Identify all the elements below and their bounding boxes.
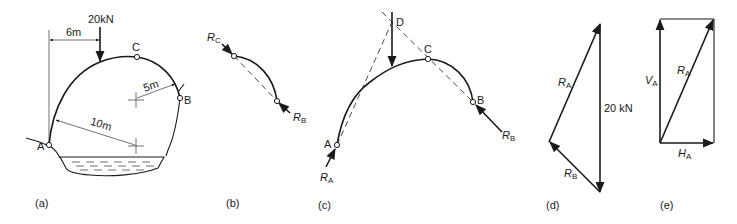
ground-left-bank [51, 147, 60, 158]
caption-b: (b) [226, 197, 239, 209]
radius-10m-label: 10m [89, 115, 113, 133]
hinge-a [46, 142, 51, 147]
label-ra: RA [677, 64, 691, 78]
panel-d-force-triangle: RA RB 20 kN (d) [546, 24, 633, 211]
arch-curve [337, 59, 473, 145]
label-b: B [184, 94, 191, 106]
ra-vector [549, 24, 600, 142]
caption-e: (e) [660, 199, 673, 211]
load-label: 20kN [88, 13, 114, 25]
rock-face-right [166, 98, 180, 156]
panel-b-member-cb: RC RB (b) [207, 31, 306, 209]
label-rb: RB [502, 129, 515, 143]
hinge-b [470, 99, 475, 104]
hinge-b [274, 98, 279, 103]
label-c: C [424, 43, 432, 55]
water-pool [60, 157, 164, 176]
panel-e-reaction-components: VA RA HA (e) [645, 19, 714, 211]
arch-curve [49, 57, 180, 145]
label-a: A [324, 138, 332, 150]
hinge-c [425, 56, 430, 61]
radius-5m-label: 5m [142, 77, 160, 94]
rb-vector [550, 142, 600, 192]
force-rb-arrow [279, 103, 290, 113]
line-of-action-ra [337, 22, 392, 145]
label-d: D [396, 16, 404, 28]
label-ha: HA [678, 147, 692, 161]
label-va: VA [645, 74, 658, 88]
three-hinged-arch-diagram: 6m 20kN 5m 10m [0, 0, 737, 224]
panel-a-arch-geometry: 6m 20kN 5m 10m [26, 13, 191, 209]
label-b: B [477, 94, 484, 106]
hinge-tick [178, 84, 184, 92]
force-rc-arrow [222, 44, 232, 54]
force-rb-arrow [476, 105, 502, 132]
label-ra: RA [320, 171, 334, 185]
centre-mark-large [128, 138, 144, 154]
label-rb: RB [293, 111, 306, 125]
caption-d: (d) [546, 199, 559, 211]
caption-c: (c) [318, 199, 331, 211]
centre-mark-small [128, 92, 144, 108]
hinge-a [334, 142, 339, 147]
caption-a: (a) [35, 197, 48, 209]
label-rc: RC [207, 31, 221, 45]
label-a: A [37, 140, 45, 152]
ra-vector [660, 20, 713, 143]
hinge-c [231, 53, 236, 58]
label-c: C [132, 41, 140, 53]
load-label: 20 kN [604, 102, 633, 114]
hinge-b [177, 95, 182, 100]
label-rb: RB [564, 167, 577, 181]
label-ra: RA [558, 76, 572, 90]
panel-c-three-force-member: D C B A RA RB (c) [318, 12, 515, 211]
water-dashes [72, 162, 154, 170]
dimension-6m-label: 6m [66, 26, 81, 38]
hinge-c [134, 54, 139, 59]
force-ra-arrow [326, 149, 335, 167]
